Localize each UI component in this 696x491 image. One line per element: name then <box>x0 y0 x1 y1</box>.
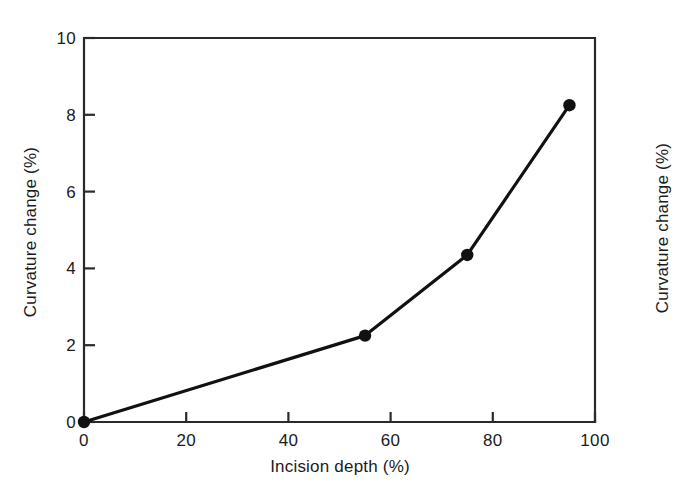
x-tick-label-80: 80 <box>483 432 503 449</box>
x-tick-label-20: 20 <box>176 432 196 449</box>
data-point-3 <box>563 99 575 111</box>
y-axis-title: Curvature change (%) <box>22 147 39 317</box>
data-point-0 <box>78 416 90 428</box>
y-tick-label-10: 10 <box>44 30 76 47</box>
line-chart-plot <box>0 0 696 491</box>
x-tick-label-60: 60 <box>381 432 401 449</box>
x-tick-label-40: 40 <box>279 432 299 449</box>
x-axis-title: Incision depth (%) <box>270 458 410 475</box>
adjacent-figure-y-axis-title: Curvature change (%) <box>654 143 671 313</box>
data-point-2 <box>461 249 473 261</box>
data-line-series-0 <box>84 105 569 422</box>
x-tick-label-0: 0 <box>79 432 89 449</box>
y-tick-label-8: 8 <box>44 106 76 123</box>
axes-spines <box>84 38 595 422</box>
figure-container: 10 8 6 4 2 0 0 20 40 60 80 100 Incision … <box>0 0 696 491</box>
plot-frame <box>84 38 595 422</box>
y-tick-label-0: 0 <box>44 414 76 431</box>
data-point-1 <box>359 329 371 341</box>
y-tick-label-4: 4 <box>44 260 76 277</box>
y-tick-label-6: 6 <box>44 183 76 200</box>
x-axis-ticks <box>84 412 595 422</box>
data-markers <box>78 99 576 428</box>
y-tick-label-2: 2 <box>44 337 76 354</box>
y-axis-ticks <box>84 38 95 422</box>
x-tick-label-100: 100 <box>580 432 609 449</box>
